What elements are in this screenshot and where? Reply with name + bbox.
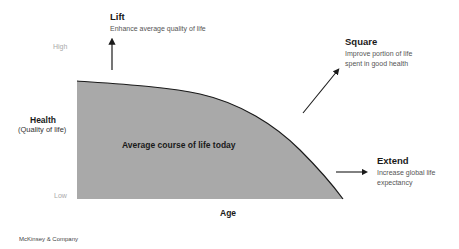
y-axis-subtitle: (Quality of life)	[18, 125, 66, 134]
y-axis-low-label: Low	[54, 192, 67, 199]
lift-title: Lift	[110, 11, 125, 22]
source-label: McKinsey & Company	[19, 236, 78, 242]
square-description-line-1: Improve portion of life	[345, 49, 412, 59]
lift-description: Enhance average quality of life	[110, 24, 206, 34]
extend-description-line-2: expectancy	[377, 178, 412, 188]
y-axis-high-label: High	[53, 43, 67, 50]
extend-title: Extend	[377, 155, 409, 166]
square-arrow-icon	[303, 70, 338, 113]
area-label: Average course of life today	[122, 140, 236, 150]
extend-description-line-1: Increase global life	[377, 168, 435, 178]
x-axis-title: Age	[220, 208, 236, 218]
y-axis-title: Health	[18, 115, 68, 125]
square-description-line-2: spent in good health	[345, 59, 408, 69]
square-title: Square	[345, 36, 377, 47]
